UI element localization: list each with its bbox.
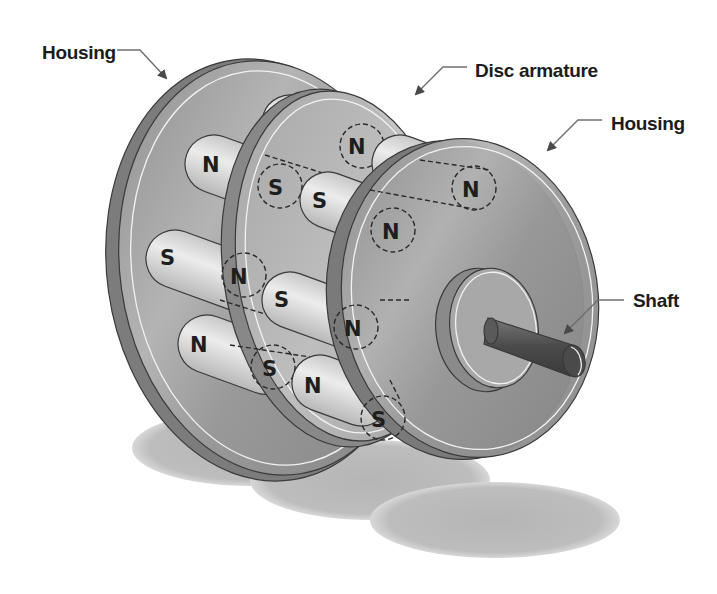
svg-text:S: S xyxy=(274,288,289,312)
svg-text:N: N xyxy=(190,333,208,357)
disc-motor-diagram: S N S N S N N S S xyxy=(0,0,717,594)
label-disc-armature: Disc armature xyxy=(416,60,598,94)
svg-text:Shaft: Shaft xyxy=(633,290,680,311)
svg-text:S: S xyxy=(262,357,277,381)
label-housing-left: Housing xyxy=(42,42,166,78)
svg-text:N: N xyxy=(202,153,220,177)
svg-text:N: N xyxy=(382,220,400,244)
label-housing-right: Housing xyxy=(548,113,685,150)
svg-text:N: N xyxy=(348,135,366,159)
svg-text:N: N xyxy=(344,317,362,341)
svg-text:N: N xyxy=(230,265,248,289)
svg-text:S: S xyxy=(268,176,283,200)
svg-text:Housing: Housing xyxy=(42,42,116,63)
svg-text:S: S xyxy=(312,189,327,213)
svg-text:N: N xyxy=(304,374,322,398)
svg-text:Disc armature: Disc armature xyxy=(475,60,598,81)
svg-text:S: S xyxy=(160,246,175,270)
svg-text:N: N xyxy=(462,178,480,202)
svg-text:S: S xyxy=(371,408,386,432)
svg-text:Housing: Housing xyxy=(611,113,685,134)
